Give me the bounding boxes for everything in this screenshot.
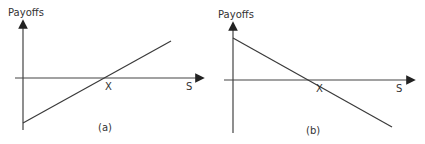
payoff-line-a bbox=[23, 41, 171, 123]
x-axis-label-b: S bbox=[396, 83, 402, 94]
strike-label-b: X bbox=[316, 83, 323, 94]
y-axis-label-b: Payoffs bbox=[218, 9, 254, 20]
panel-b: Payoffs X S (b) bbox=[218, 9, 411, 136]
caption-b: (b) bbox=[306, 125, 320, 136]
payoff-diagrams: Payoffs X S (a) Payoffs X S (b) bbox=[0, 0, 425, 144]
y-axis-label-a: Payoffs bbox=[8, 7, 44, 18]
caption-a: (a) bbox=[98, 122, 112, 133]
strike-label-a: X bbox=[105, 81, 112, 92]
payoff-line-b bbox=[233, 38, 392, 127]
x-axis-label-a: S bbox=[186, 81, 192, 92]
panel-a: Payoffs X S (a) bbox=[8, 7, 200, 133]
